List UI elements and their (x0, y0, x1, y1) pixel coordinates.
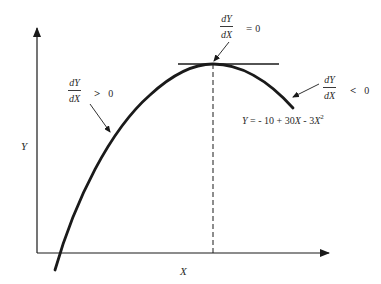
equals-sign: = (246, 22, 252, 34)
greater-than-sign: > (94, 87, 100, 99)
increasing-relation: >0 (94, 88, 113, 99)
fraction-numerator: dY (220, 14, 233, 26)
increasing-derivative-fraction: dY dX (68, 78, 81, 104)
fraction-denominator: dX (68, 91, 81, 104)
fraction-denominator: dX (323, 88, 336, 101)
relation-value: 0 (108, 88, 113, 99)
curve-equation: Y = - 10 + 30X - 3X2 (242, 114, 324, 126)
fraction-numerator: dY (68, 78, 81, 90)
equation-minus: - (303, 115, 306, 126)
relation-value: 0 (364, 85, 369, 96)
maximum-derivative-fraction: dY dX (220, 14, 233, 40)
fraction-denominator: dX (220, 27, 233, 40)
pointer-maximum (214, 42, 229, 61)
fraction-numerator: dY (323, 75, 336, 87)
decreasing-derivative-fraction: dY dX (323, 75, 336, 101)
equation-exponent: 2 (320, 113, 324, 121)
relation-value: 0 (255, 23, 260, 34)
equation-equals: = (250, 115, 256, 126)
x-axis-label: X (180, 266, 187, 277)
pointer-increasing (90, 104, 110, 132)
equation-lhs: Y (242, 115, 248, 126)
less-than-sign: < (350, 84, 356, 96)
equation-linear-var: X (295, 115, 301, 126)
maximum-relation: =0 (246, 23, 260, 34)
quadratic-curve (55, 64, 293, 270)
y-axis-label: Y (21, 141, 27, 152)
equation-plus: + (277, 115, 283, 126)
diagram-canvas (0, 0, 381, 284)
equation-linear-coef: 30 (285, 115, 295, 126)
pointer-decreasing (293, 84, 319, 97)
equation-constant: - 10 (258, 115, 274, 126)
decreasing-relation: <0 (350, 85, 369, 96)
